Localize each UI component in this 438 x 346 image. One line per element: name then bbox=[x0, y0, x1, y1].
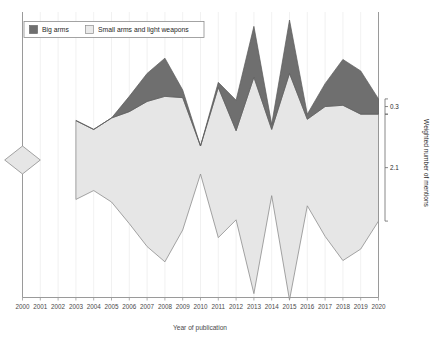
x-axis-tick-label: 2007 bbox=[140, 303, 155, 310]
x-axis-tick-label: 2017 bbox=[318, 303, 333, 310]
legend-swatch-big-arms bbox=[30, 26, 38, 34]
x-axis-tick-label: 2016 bbox=[300, 303, 315, 310]
x-axis-tick-label: 2002 bbox=[51, 303, 66, 310]
x-axis-title: Year of publication bbox=[173, 324, 227, 332]
x-axis-tick-label: 2011 bbox=[212, 303, 226, 310]
x-axis-tick-label: 2001 bbox=[33, 303, 48, 310]
x-axis-tick-label: 2006 bbox=[122, 303, 137, 310]
legend-label-big-arms: Big arms bbox=[42, 26, 69, 34]
chart-legend: Big arms Small arms and light weapons bbox=[24, 22, 204, 38]
x-axis-tick-label: 2014 bbox=[265, 303, 280, 310]
x-axis-tick-label: 2004 bbox=[87, 303, 102, 310]
x-axis-tick-labels: 2000200120022003200420052006200720082009… bbox=[15, 303, 386, 310]
legend-swatch-small-arms bbox=[86, 26, 94, 34]
y-axis-brackets: 0.32.1 bbox=[385, 99, 399, 221]
x-axis-tick-label: 2005 bbox=[104, 303, 119, 310]
x-axis-tick-label: 2019 bbox=[354, 303, 369, 310]
y-axis-title: Weighted number of mentions bbox=[422, 119, 430, 208]
x-axis-tick-label: 2009 bbox=[176, 303, 191, 310]
y-bracket-big-arms: 0.3 bbox=[385, 99, 399, 114]
x-axis-tick-label: 2008 bbox=[158, 303, 173, 310]
streamgraph-chart: 2000200120022003200420052006200720082009… bbox=[0, 0, 438, 346]
x-axis-tick-label: 2020 bbox=[371, 303, 386, 310]
x-axis-tick-label: 2000 bbox=[15, 303, 30, 310]
series-areas bbox=[5, 20, 379, 300]
x-axis-tick-label: 2018 bbox=[336, 303, 351, 310]
x-axis-tick-label: 2003 bbox=[69, 303, 84, 310]
legend-label-small-arms: Small arms and light weapons bbox=[98, 26, 189, 34]
x-axis-tick-label: 2013 bbox=[247, 303, 262, 310]
series-area-small-arms bbox=[5, 146, 41, 174]
x-axis-tick-label: 2015 bbox=[282, 303, 297, 310]
y-bracket-small-arms: 2.1 bbox=[385, 114, 399, 221]
y-bracket-label-big-arms: 0.3 bbox=[390, 103, 399, 110]
x-axis-ticks bbox=[23, 297, 379, 301]
x-axis-tick-label: 2012 bbox=[229, 303, 244, 310]
y-bracket-label-small-arms: 2.1 bbox=[390, 164, 399, 171]
chart-canvas: 2000200120022003200420052006200720082009… bbox=[0, 0, 438, 346]
x-axis-tick-label: 2010 bbox=[193, 303, 208, 310]
